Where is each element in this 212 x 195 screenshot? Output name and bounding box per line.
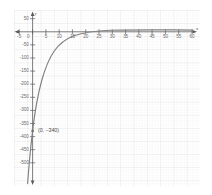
y-intercept-marker [31,130,34,133]
y-axis [30,12,35,186]
axes-and-curve [14,10,200,186]
exponential-decay-curve [28,30,193,184]
graph-figure: -5 0 5 10 15 20 25 30 35 40 45 50 55 60 … [0,0,212,195]
plot-area: -5 0 5 10 15 20 25 30 35 40 45 50 55 60 … [14,10,200,186]
